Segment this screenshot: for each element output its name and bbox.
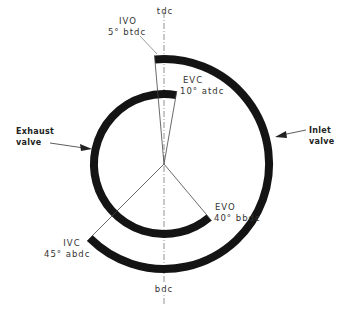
evo-angle-label: 40° bbdc bbox=[214, 213, 261, 223]
bdc-label: bdc bbox=[151, 284, 177, 294]
evc-angle-label: 10° atdc bbox=[180, 86, 224, 96]
ivc-event-label: IVC bbox=[52, 238, 92, 248]
exhaust-valve-label-line2: valve bbox=[16, 138, 42, 148]
ivo-leader-line bbox=[140, 36, 157, 54]
diagram-canvas bbox=[0, 0, 339, 315]
inlet-valve-label-line1: Inlet bbox=[309, 126, 331, 136]
exhaust-valve-label-line1: Exhaust bbox=[16, 127, 54, 137]
evo-radial-line bbox=[164, 164, 212, 221]
evc-radial-line bbox=[164, 91, 177, 164]
evc-event-label: EVC bbox=[183, 75, 203, 85]
inlet-valve-label-line2: valve bbox=[309, 137, 335, 147]
evo-event-label: EVO bbox=[215, 202, 236, 212]
tdc-label: tdc bbox=[152, 6, 178, 16]
ivo-angle-label: 5° btdc bbox=[104, 27, 150, 37]
inlet-arrow-head bbox=[275, 131, 287, 138]
ivo-event-label: IVO bbox=[108, 16, 148, 26]
exhaust-valve-arc bbox=[94, 94, 209, 234]
ivo-radial-line bbox=[155, 55, 165, 164]
exhaust-arrow-head bbox=[80, 144, 92, 151]
exhaust-arrow-line bbox=[50, 143, 84, 148]
ivc-angle-label: 45° abdc bbox=[44, 249, 90, 259]
